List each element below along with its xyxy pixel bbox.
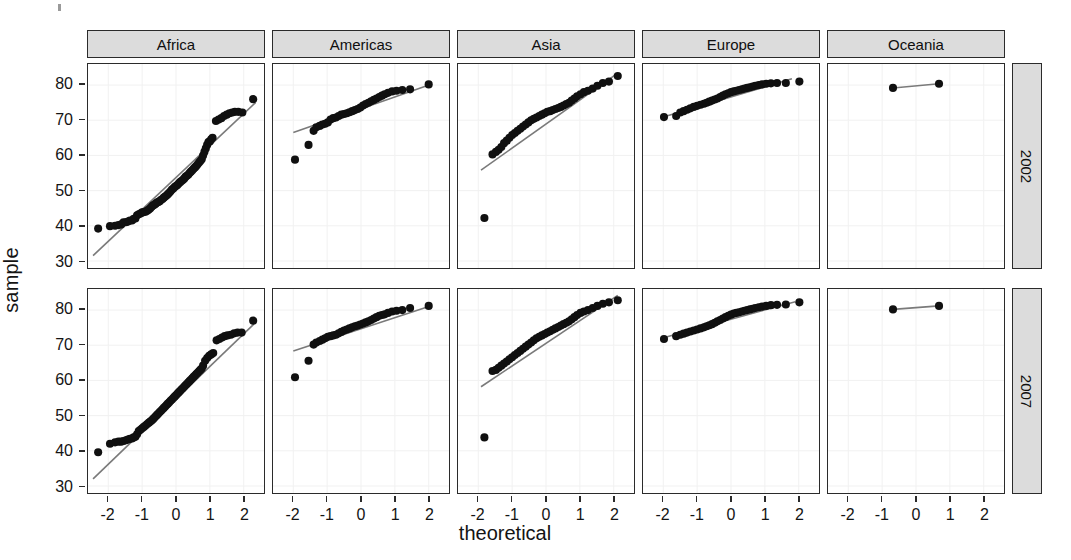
x-axis-tick-mark xyxy=(511,496,513,502)
x-axis-tick-label: 2 xyxy=(233,506,255,524)
x-axis-tick-mark xyxy=(764,496,766,502)
data-point xyxy=(425,302,433,310)
data-point xyxy=(304,141,312,149)
data-point xyxy=(889,305,897,313)
panel-oceania-2007 xyxy=(827,288,1005,494)
data-point-group xyxy=(480,72,621,222)
y-axis-tick-mark xyxy=(79,261,85,263)
x-axis-tick-label: 2 xyxy=(418,506,440,524)
x-axis-tick-mark xyxy=(107,496,109,502)
data-point xyxy=(480,214,488,222)
gridlines xyxy=(458,289,634,493)
scan-artifact xyxy=(58,4,61,11)
x-axis-tick-mark xyxy=(477,496,479,502)
y-axis-tick-mark xyxy=(79,190,85,192)
data-point xyxy=(406,304,414,312)
panel-europe-2002 xyxy=(642,63,820,269)
x-axis-tick-label: 0 xyxy=(535,506,557,524)
panel-africa-2002 xyxy=(87,63,265,269)
data-point xyxy=(782,79,790,87)
x-axis-tick-label: -1 xyxy=(686,506,708,524)
data-point xyxy=(209,349,217,357)
x-axis-tick-mark xyxy=(949,496,951,502)
data-point xyxy=(94,225,102,233)
column-strip-americas: Americas xyxy=(272,30,450,58)
data-point xyxy=(208,134,216,142)
y-axis-tick-label: 40 xyxy=(39,218,73,234)
data-point xyxy=(238,108,246,116)
x-axis-tick-label: -2 xyxy=(467,506,489,524)
x-axis-tick-mark xyxy=(243,496,245,502)
x-axis-tick-mark xyxy=(292,496,294,502)
x-axis-tick-label: -2 xyxy=(837,506,859,524)
panel-oceania-2002 xyxy=(827,63,1005,269)
y-axis-tick-label: 80 xyxy=(39,76,73,92)
y-axis-tick-label: 50 xyxy=(39,183,73,199)
y-axis-tick-mark xyxy=(79,486,85,488)
y-axis-tick-label: 60 xyxy=(39,147,73,163)
data-point xyxy=(480,433,488,441)
gridlines xyxy=(88,64,264,268)
row-strip-2002: 2002 xyxy=(1012,63,1042,269)
x-axis-tick-mark xyxy=(428,496,430,502)
data-point xyxy=(238,329,246,337)
y-axis-tick-mark xyxy=(79,450,85,452)
x-axis-tick-mark xyxy=(662,496,664,502)
y-axis-tick-mark xyxy=(79,379,85,381)
x-axis-tick-label: 1 xyxy=(939,506,961,524)
y-axis-tick-mark xyxy=(79,119,85,121)
column-strip-europe: Europe xyxy=(642,30,820,58)
data-point xyxy=(605,78,613,86)
y-axis-tick-label: 30 xyxy=(39,254,73,270)
data-point xyxy=(406,85,414,93)
x-axis-tick-mark xyxy=(141,496,143,502)
column-strip-label: Americas xyxy=(330,36,393,53)
column-strip-label: Africa xyxy=(157,36,195,53)
panel-americas-2007 xyxy=(272,288,450,494)
x-axis-tick-mark xyxy=(798,496,800,502)
x-axis-tick-label: 1 xyxy=(199,506,221,524)
x-axis-tick-mark xyxy=(175,496,177,502)
x-axis-tick-label: 1 xyxy=(754,506,776,524)
column-strip-label: Europe xyxy=(707,36,755,53)
data-point xyxy=(660,113,668,121)
x-axis-tick-label: 2 xyxy=(603,506,625,524)
x-axis-tick-label: 0 xyxy=(905,506,927,524)
data-point xyxy=(398,306,406,314)
column-strip-label: Asia xyxy=(531,36,560,53)
qq-plot-figure: sample theoretical AfricaAmericasAsiaEur… xyxy=(0,0,1071,560)
panel-africa-2007 xyxy=(87,288,265,494)
data-point-group xyxy=(480,296,621,441)
x-axis-tick-mark xyxy=(209,496,211,502)
data-point xyxy=(935,80,943,88)
gridlines xyxy=(828,289,1004,493)
x-axis-tick-mark xyxy=(847,496,849,502)
panel-asia-2007 xyxy=(457,288,635,494)
x-axis-tick-mark xyxy=(881,496,883,502)
data-point xyxy=(291,156,299,164)
y-axis-tick-mark xyxy=(79,415,85,417)
qq-reference-line xyxy=(93,103,255,256)
data-point xyxy=(782,300,790,308)
data-point xyxy=(889,84,897,92)
x-axis-tick-mark xyxy=(326,496,328,502)
gridlines xyxy=(828,64,1004,268)
x-axis-tick-mark xyxy=(579,496,581,502)
data-point-group xyxy=(291,302,433,382)
y-axis-tick-label: 70 xyxy=(39,112,73,128)
x-axis-tick-label: 0 xyxy=(350,506,372,524)
column-strip-label: Oceania xyxy=(888,36,944,53)
data-point xyxy=(795,78,803,86)
data-point xyxy=(249,95,257,103)
data-point xyxy=(773,301,781,309)
x-axis-tick-label: 2 xyxy=(788,506,810,524)
y-axis-tick-label: 50 xyxy=(39,408,73,424)
y-axis-tick-mark xyxy=(79,154,85,156)
data-point xyxy=(94,448,102,456)
data-point-group xyxy=(660,298,803,343)
gridlines xyxy=(458,64,634,268)
x-axis-tick-label: 1 xyxy=(384,506,406,524)
data-point xyxy=(614,296,622,304)
x-axis-tick-mark xyxy=(360,496,362,502)
row-strip-label: 2002 xyxy=(1019,149,1036,182)
